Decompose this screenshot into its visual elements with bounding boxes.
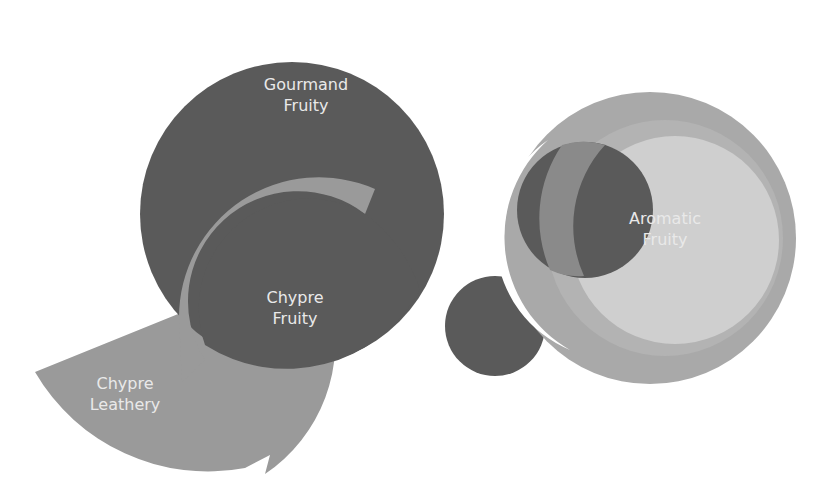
gourmand-fruity-label: Gourmand Fruity xyxy=(264,74,348,116)
label-line: Fruity xyxy=(266,308,323,329)
label-line: Fruity xyxy=(264,95,348,116)
chypre-leathery-label: Chypre Leathery xyxy=(90,373,161,415)
label-line: Aromatic xyxy=(629,208,701,229)
label-line: Chypre xyxy=(90,373,161,394)
diagram-canvas xyxy=(0,0,823,502)
label-line: Chypre xyxy=(266,287,323,308)
fragrance-family-diagram: Gourmand Fruity Chypre Fruity Chypre Lea… xyxy=(0,0,823,502)
label-line: Fruity xyxy=(629,229,701,250)
label-line: Gourmand xyxy=(264,74,348,95)
chypre-fruity-label: Chypre Fruity xyxy=(266,287,323,329)
label-line: Leathery xyxy=(90,394,161,415)
aromatic-fruity-label: Aromatic Fruity xyxy=(629,208,701,250)
